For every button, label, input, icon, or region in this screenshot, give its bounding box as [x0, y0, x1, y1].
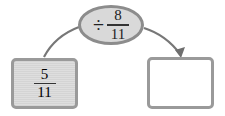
operation-numerator: 8 [114, 8, 122, 23]
input-box: 5 11 [11, 58, 78, 109]
arc-right [144, 28, 180, 54]
input-numerator: 5 [41, 67, 49, 82]
operation-denominator: 11 [111, 27, 125, 42]
arc-left [44, 27, 79, 57]
operation-oval: ÷ 8 11 [78, 5, 144, 45]
input-denominator: 11 [37, 85, 51, 100]
input-fraction: 5 11 [34, 67, 56, 100]
answer-box[interactable] [147, 57, 214, 109]
operation-fraction: 8 11 [107, 8, 129, 41]
divide-operator: ÷ [93, 15, 104, 35]
